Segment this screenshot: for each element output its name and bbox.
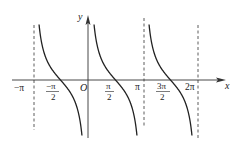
svg-text:3π: 3π: [157, 81, 167, 91]
tick-label-neg-pi: −π: [14, 83, 24, 93]
tick-label-half-pi: π 2: [105, 81, 114, 102]
origin-label: O: [80, 82, 87, 93]
svg-text:2: 2: [107, 92, 112, 102]
svg-text:2: 2: [160, 92, 165, 102]
svg-text:π: π: [106, 81, 111, 91]
tick-label-pi: π: [135, 82, 140, 92]
tick-label-2pi: 2π: [185, 82, 195, 92]
tick-label-neg-half-pi: −π 2: [46, 81, 59, 102]
y-axis-label: y: [77, 11, 83, 22]
tick-label-three-half-pi: 3π 2: [156, 81, 170, 102]
svg-text:−π: −π: [46, 81, 56, 91]
svg-text:2: 2: [51, 92, 56, 102]
cotangent-graph: y x O −π −π 2 π 2 π 3π 2 2π: [0, 0, 237, 153]
x-axis-label: x: [224, 80, 230, 91]
